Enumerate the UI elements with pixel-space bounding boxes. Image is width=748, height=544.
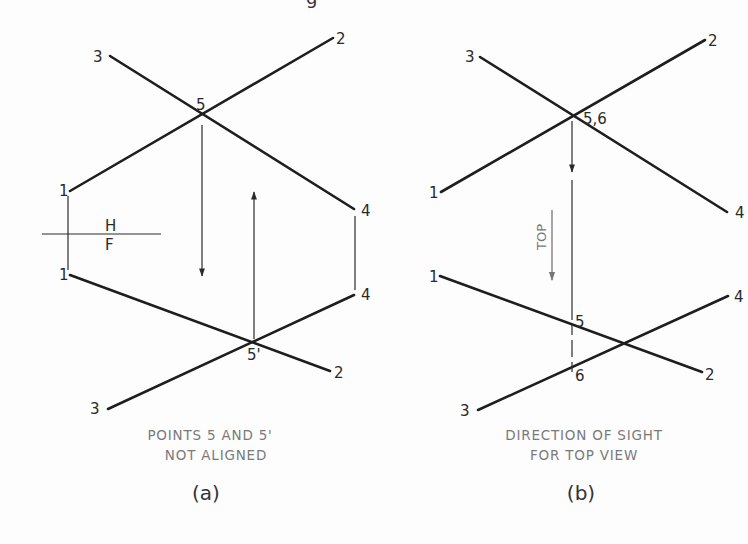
caption-line-2-b: FOR TOP VIEW <box>530 447 638 463</box>
label-2-front-b: 2 <box>705 366 715 384</box>
line-1-2-front-view-b <box>440 276 702 372</box>
label-2: 2 <box>336 30 346 48</box>
figure-label-a: (a) <box>192 481 220 505</box>
line-3-4-top-view-b <box>480 57 727 212</box>
fold-label-f: F <box>105 236 114 254</box>
line-1-2-top-view-b <box>441 40 705 192</box>
label-3-front: 3 <box>90 400 100 418</box>
caption-line-1-b: DIRECTION OF SIGHT <box>505 427 662 443</box>
label-6-front-b: 6 <box>575 367 585 385</box>
label-5-front-b: 5 <box>575 313 585 331</box>
skew-lines-diagram: g 3 2 5 1 4 H F 1 <box>0 0 748 544</box>
label-3-front-b: 3 <box>460 402 470 420</box>
label-2-b: 2 <box>708 32 718 50</box>
label-4: 4 <box>361 202 371 220</box>
label-4-b: 4 <box>735 204 745 222</box>
label-5-6: 5,6 <box>583 110 607 128</box>
label-3: 3 <box>93 48 103 66</box>
caption-line-2: NOT ALIGNED <box>165 447 267 463</box>
label-5: 5 <box>196 96 206 114</box>
figure-b: TOP 3 2 5,6 1 4 1 4 5 6 2 3 DIRECTION OF… <box>429 32 745 505</box>
caption-line-1: POINTS 5 AND 5' <box>147 427 272 443</box>
label-3-b: 3 <box>465 48 475 66</box>
line-3-4-front-view <box>108 295 354 409</box>
label-1-front-b: 1 <box>429 268 439 286</box>
label-1-b: 1 <box>429 184 439 202</box>
line-3-4-top-view <box>110 56 354 209</box>
figure-a: 3 2 5 1 4 H F 1 4 5' 2 3 POINTS 5 AND 5'… <box>42 30 371 505</box>
label-4-front: 4 <box>361 286 371 304</box>
label-2-front: 2 <box>334 364 344 382</box>
label-1-front: 1 <box>59 266 69 284</box>
line-3-4-front-view-b <box>478 296 728 410</box>
clipped-heading-fragment: g <box>306 0 317 8</box>
fold-label-h: H <box>105 217 116 235</box>
top-direction-note: TOP <box>534 224 549 251</box>
label-1: 1 <box>59 182 69 200</box>
label-4-front-b: 4 <box>734 288 744 306</box>
label-5-prime: 5' <box>247 346 261 364</box>
figure-label-b: (b) <box>567 481 595 505</box>
diagram-canvas: g 3 2 5 1 4 H F 1 <box>0 0 748 544</box>
